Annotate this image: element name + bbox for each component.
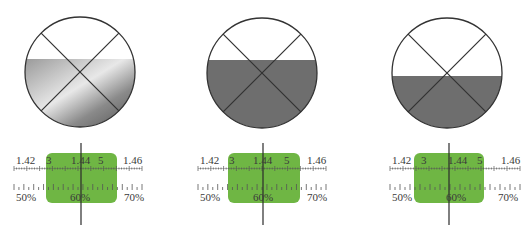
percent-label: 60%	[446, 192, 466, 203]
refractive-index-label: 3	[421, 155, 427, 166]
refractive-index-label: 3	[46, 155, 52, 166]
percent-label: 50%	[392, 192, 412, 203]
shaded-field	[207, 60, 317, 128]
refractive-index-label: 1.42	[16, 155, 35, 166]
refractive-index-label: 1.44	[71, 155, 90, 166]
refractive-index-label: 5	[284, 155, 290, 166]
percent-label: 60%	[70, 192, 90, 203]
shaded-field	[25, 59, 135, 127]
percent-label: 70%	[307, 192, 327, 203]
refractive-index-label: 1.46	[501, 155, 520, 166]
refractive-index-label: 1.42	[392, 155, 411, 166]
refractive-index-label: 1.46	[307, 155, 326, 166]
percent-label: 70%	[124, 192, 144, 203]
refractive-index-label: 3	[229, 155, 235, 166]
refractive-index-label: 1.46	[123, 155, 142, 166]
refractive-index-label: 5	[477, 155, 483, 166]
percent-label: 70%	[498, 192, 518, 203]
refractive-index-label: 5	[98, 155, 104, 166]
shaded-field	[392, 76, 502, 128]
figure-caption	[187, 226, 352, 230]
refractive-index-label: 1.44	[253, 155, 272, 166]
percent-label: 60%	[253, 192, 273, 203]
refractive-index-label: 1.42	[200, 155, 219, 166]
refractive-index-label: 1.44	[448, 155, 467, 166]
percent-label: 50%	[200, 192, 220, 203]
percent-label: 50%	[16, 192, 36, 203]
